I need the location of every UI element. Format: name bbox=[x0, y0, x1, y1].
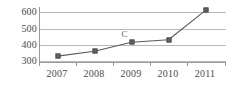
data-point-2011 bbox=[203, 8, 208, 13]
line-chart: 600 500 400 300 C 2007 2008 2009 2010 20… bbox=[0, 0, 234, 93]
x-tick-label-2008: 2008 bbox=[74, 69, 114, 79]
data-point-2009 bbox=[129, 40, 134, 45]
series-line bbox=[0, 0, 234, 93]
annotation-label-c: C bbox=[121, 30, 127, 39]
data-point-2008 bbox=[92, 49, 97, 54]
x-tick-label-2009: 2009 bbox=[111, 69, 151, 79]
x-tick-label-2007: 2007 bbox=[37, 69, 77, 79]
x-tick-label-2010: 2010 bbox=[148, 69, 188, 79]
data-point-2007 bbox=[55, 54, 60, 59]
x-tick-label-2011: 2011 bbox=[185, 69, 225, 79]
data-point-2010 bbox=[166, 37, 171, 42]
